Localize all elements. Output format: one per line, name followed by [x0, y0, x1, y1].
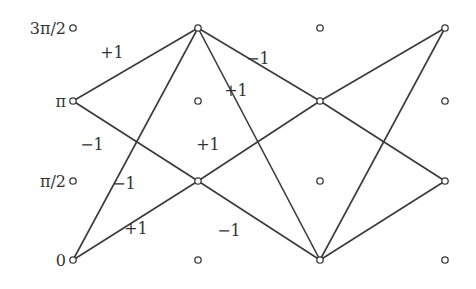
state-node — [442, 178, 448, 184]
edge-weight-label: +1 — [196, 135, 220, 154]
edge-line — [320, 28, 445, 101]
edge-labels: +1−1−1+1−1+1+1−1 — [80, 43, 270, 240]
trellis-diagram: 3π/2ππ/20 +1−1−1+1−1+1+1−1 — [0, 0, 476, 289]
state-node — [195, 178, 201, 184]
edge-weight-label: +1 — [124, 219, 148, 238]
row-labels: 3π/2ππ/20 — [30, 19, 66, 270]
state-node — [70, 178, 76, 184]
state-node — [317, 178, 323, 184]
state-node — [442, 25, 448, 31]
edge-weight-label: −1 — [80, 135, 104, 154]
state-node — [70, 98, 76, 104]
state-node — [442, 257, 448, 263]
row-label: 3π/2 — [30, 19, 66, 38]
state-node — [195, 257, 201, 263]
edge-line — [73, 28, 198, 101]
edge-line — [320, 28, 445, 260]
edge-line — [320, 181, 445, 260]
edge-weight-label: +1 — [100, 43, 124, 62]
edge-weight-label: −1 — [217, 221, 241, 240]
state-node — [442, 98, 448, 104]
state-node — [195, 25, 201, 31]
edge-line — [320, 101, 445, 181]
state-node — [70, 257, 76, 263]
state-node — [317, 257, 323, 263]
row-label: π/2 — [40, 172, 66, 191]
edge-weight-label: −1 — [246, 49, 270, 68]
edge-weight-label: −1 — [112, 174, 136, 193]
state-node — [70, 25, 76, 31]
row-label: 0 — [56, 251, 66, 270]
state-node — [195, 98, 201, 104]
row-label: π — [55, 92, 66, 111]
trellis-svg: 3π/2ππ/20 +1−1−1+1−1+1+1−1 — [0, 0, 476, 289]
state-node — [317, 98, 323, 104]
state-node — [317, 25, 323, 31]
edge-weight-label: +1 — [224, 81, 248, 100]
